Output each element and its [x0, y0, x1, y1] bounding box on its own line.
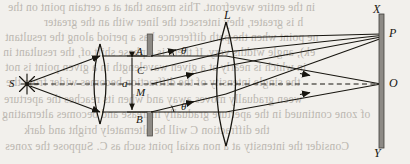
- label-slit-width: a: [122, 77, 128, 89]
- label-slit-mid: M: [136, 86, 145, 98]
- theta-angle-arcs: [172, 50, 175, 112]
- label-lens: L: [224, 8, 231, 23]
- label-point-o: O: [389, 76, 398, 91]
- label-source: S: [9, 77, 15, 89]
- label-slit-upper-mid: C: [137, 64, 144, 76]
- label-angle-upper: θ: [181, 44, 186, 56]
- label-angle-lower: θ: [181, 100, 186, 112]
- label-slit-bottom: B: [136, 113, 143, 125]
- diagram-artwork: [0, 0, 410, 164]
- optics-diagram-figure: in the entire wavefront. This means that…: [0, 0, 410, 164]
- barrier-with-slit-icon: [147, 34, 152, 136]
- source-icon: [20, 74, 39, 94]
- label-screen-bottom: Y: [374, 146, 381, 161]
- label-screen-top: X: [373, 2, 380, 17]
- label-slit-top: A: [136, 45, 143, 57]
- label-point-p: P: [389, 26, 396, 41]
- observation-screen-icon: [379, 14, 384, 148]
